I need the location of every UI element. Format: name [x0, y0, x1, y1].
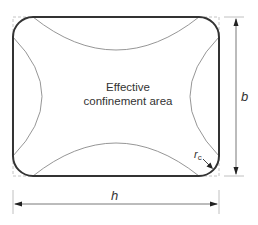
label-line-2: confinement area — [58, 94, 198, 108]
dimension-b-label: b — [241, 89, 248, 104]
corner-radius-label: rc — [194, 148, 202, 162]
corner-radius-leader — [203, 159, 213, 169]
label-line-1: Effective — [58, 80, 198, 94]
arrow-left-icon — [14, 202, 22, 207]
radius-subscript: c — [198, 153, 202, 162]
arrow-down-icon — [234, 167, 239, 175]
dimension-h-label: h — [111, 188, 118, 203]
arch-bottom — [33, 143, 199, 176]
effective-confinement-area-label: Effective confinement area — [58, 80, 198, 108]
diagram-canvas — [0, 0, 258, 225]
arch-top — [33, 17, 199, 50]
arrow-up-icon — [234, 18, 239, 26]
arrow-right-icon — [210, 202, 218, 207]
arch-left — [13, 37, 42, 156]
